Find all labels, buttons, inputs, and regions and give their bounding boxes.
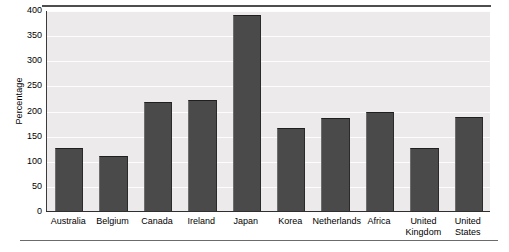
x-axis-line	[46, 211, 490, 212]
x-axis-tick-label: United Kingdom	[401, 216, 445, 238]
y-axis-tick-label: 400	[16, 6, 42, 15]
y-axis-tick-label: 100	[16, 157, 42, 166]
y-axis-tick-label: 200	[16, 107, 42, 116]
y-axis-title: Percentage	[14, 61, 24, 141]
x-axis-tick-label: Japan	[224, 216, 268, 227]
plot-area	[46, 11, 490, 212]
bar-series	[47, 11, 490, 212]
figure-top-rule	[42, 5, 491, 7]
x-axis-tick-label: Australia	[46, 216, 90, 227]
x-axis-tick-label: Africa	[357, 216, 401, 227]
bar	[455, 117, 483, 212]
bar	[321, 118, 349, 212]
x-axis-tick-label: Ireland	[179, 216, 223, 227]
bar	[233, 15, 261, 212]
figure-bottom-rule	[20, 240, 498, 241]
x-axis-tick-label: Korea	[268, 216, 312, 227]
y-axis-tick-label: 250	[16, 81, 42, 90]
bar	[188, 100, 216, 212]
y-axis-tick-label: 300	[16, 56, 42, 65]
bar	[144, 102, 172, 212]
bar	[366, 112, 394, 212]
bar	[55, 148, 83, 212]
y-axis-tick-label: 350	[16, 31, 42, 40]
y-axis-tick-label: 150	[16, 132, 42, 141]
y-axis-tick-label: 50	[16, 182, 42, 191]
x-axis-tick-label: United States	[446, 216, 490, 238]
bar-chart-figure: Percentage 050100150200250300350400 Aust…	[0, 0, 509, 252]
x-axis-tick-label: Belgium	[90, 216, 134, 227]
bar	[410, 148, 438, 212]
bar	[99, 156, 127, 212]
x-axis-tick-label: Netherlands	[312, 216, 356, 227]
x-axis-tick-label: Canada	[135, 216, 179, 227]
y-axis-tick-label: 0	[16, 207, 42, 216]
bar	[277, 128, 305, 212]
